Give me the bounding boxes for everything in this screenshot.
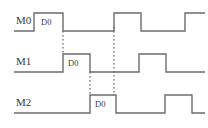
waveform-m2 — [14, 95, 205, 113]
timing-diagram-svg: M0D0M1D0M2D0 — [0, 0, 208, 128]
signal-label-m2: M2 — [16, 96, 31, 108]
timing-diagram-canvas: M0D0M1D0M2D0 — [0, 0, 208, 128]
data-label-m2-d0: D0 — [95, 99, 105, 109]
waveforms-group — [14, 13, 205, 113]
data-label-m1-d0: D0 — [68, 58, 78, 68]
signal-label-m0: M0 — [16, 14, 32, 26]
data-label-m0-d0: D0 — [41, 17, 51, 27]
signal-label-m1: M1 — [16, 55, 31, 67]
waveform-m1 — [14, 54, 205, 72]
